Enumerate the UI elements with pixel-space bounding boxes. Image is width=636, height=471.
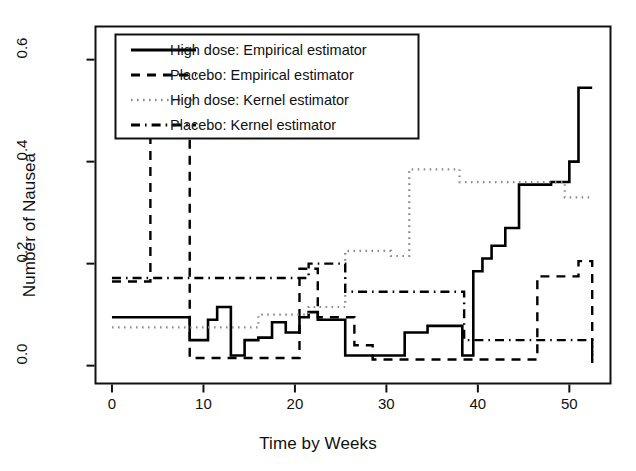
x-tick-label: 40 [453,395,503,412]
series-line [112,264,592,356]
y-tick-label: 0.4 [13,127,30,173]
series-line [112,106,592,364]
x-tick-label: 30 [361,395,411,412]
legend-item-placebo-kernel: Placebo: Kernel estimator [170,113,367,138]
x-tick-label: 10 [178,395,228,412]
legend-item-high-dose-empirical: High dose: Empirical estimator [170,38,367,63]
y-tick-label: 0.0 [13,331,30,377]
nausea-step-plot-figure: Time by Weeks Number of Nausea 010203040… [0,0,636,471]
legend-labels: High dose: Empirical estimator Placebo: … [170,38,367,138]
x-tick-label: 0 [87,395,137,412]
x-axis-title: Time by Weeks [0,434,636,454]
x-tick-label: 50 [544,395,594,412]
y-tick-label: 0.2 [13,229,30,275]
legend-item-placebo-empirical: Placebo: Empirical estimator [170,63,367,88]
y-tick-label: 0.6 [13,25,30,71]
legend-item-high-dose-kernel: High dose: Kernel estimator [170,88,367,113]
x-tick-label: 20 [270,395,320,412]
